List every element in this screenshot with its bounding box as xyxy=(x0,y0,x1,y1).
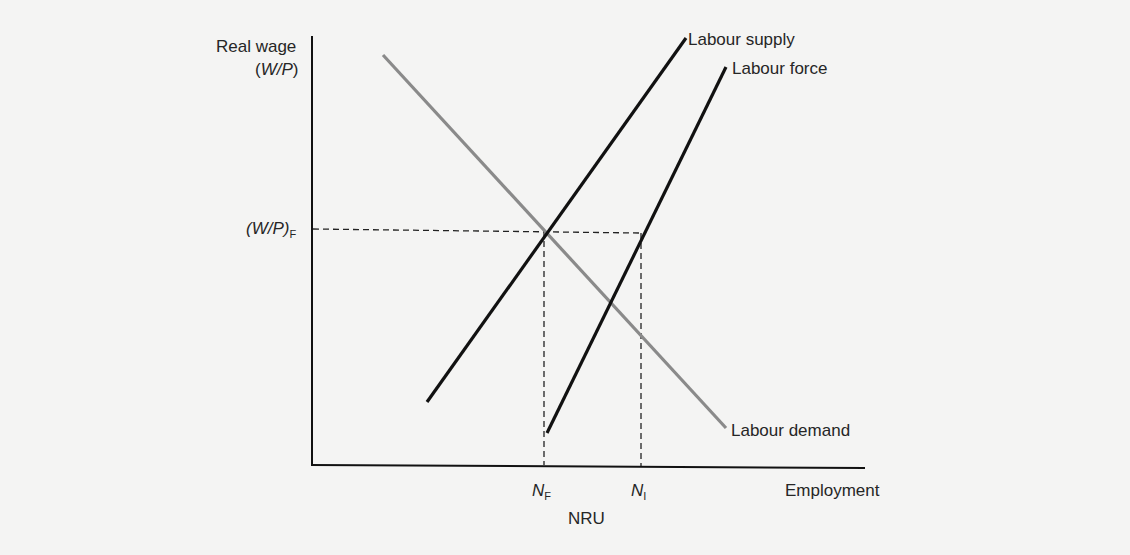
labour-market-chart: Real wage (W/P) (W/P)F Labour supply Lab… xyxy=(0,0,1130,555)
ni-tick-label: NI xyxy=(631,481,646,502)
labour-supply-line xyxy=(427,38,686,402)
wf-var: (W/P) xyxy=(246,219,289,238)
labour-demand-line xyxy=(383,55,726,428)
ni-var: N xyxy=(631,481,643,500)
labour-force-label: Labour force xyxy=(732,59,827,79)
chart-canvas xyxy=(0,0,1130,555)
nru-annotation: NRU xyxy=(568,509,605,529)
y-axis-label-line1: Real wage xyxy=(216,37,296,57)
labour-supply-label: Labour supply xyxy=(688,30,795,50)
equilibrium-wage-label: (W/P)F xyxy=(246,219,296,240)
ni-sub: I xyxy=(643,490,646,502)
y-axis-label-line2: (W/P) xyxy=(255,60,298,80)
nf-sub: F xyxy=(544,490,551,502)
wp-var: W/P xyxy=(261,60,293,79)
nf-var: N xyxy=(532,481,544,500)
equilibrium-wage-guide xyxy=(313,229,641,233)
nf-tick-label: NF xyxy=(532,481,551,502)
labour-demand-label: Labour demand xyxy=(731,421,850,441)
labour-force-line xyxy=(547,67,726,433)
x-axis-label: Employment xyxy=(785,481,879,501)
x-axis xyxy=(311,465,865,468)
paren-close: ) xyxy=(293,60,299,79)
wf-sub: F xyxy=(289,228,296,240)
